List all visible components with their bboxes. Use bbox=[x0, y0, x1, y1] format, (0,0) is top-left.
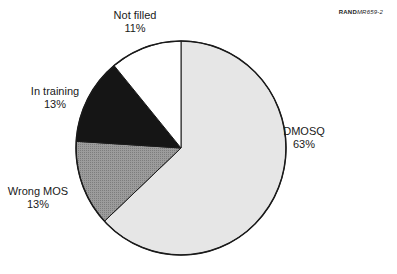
slice-label-percent: 13% bbox=[3, 198, 73, 211]
label-dmosq: DMOSQ 63% bbox=[274, 125, 334, 151]
slice-label-name: In training bbox=[20, 85, 90, 98]
slice-label-name: DMOSQ bbox=[274, 125, 334, 138]
slice-label-name: Not filled bbox=[103, 9, 167, 22]
label-wrong-mos: Wrong MOS 13% bbox=[3, 185, 73, 211]
label-not-filled: Not filled 11% bbox=[103, 9, 167, 35]
slice-label-name: Wrong MOS bbox=[3, 185, 73, 198]
label-in-training: In training 13% bbox=[20, 85, 90, 111]
slice-label-percent: 13% bbox=[20, 98, 90, 111]
slice-label-percent: 11% bbox=[103, 22, 167, 35]
pie-chart bbox=[0, 0, 397, 274]
slice-label-percent: 63% bbox=[274, 138, 334, 151]
